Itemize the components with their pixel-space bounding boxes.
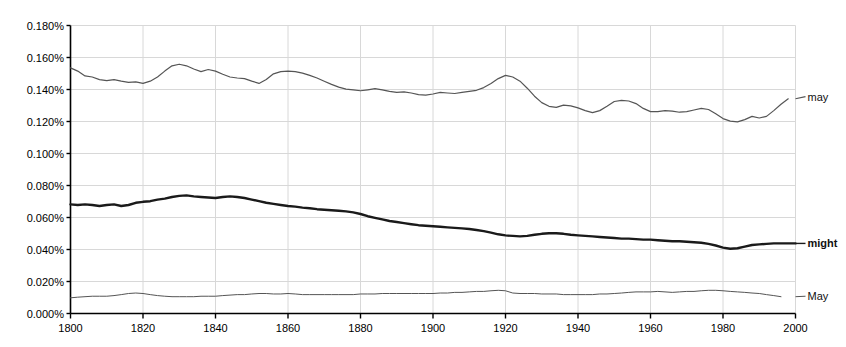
x-tick-label: 1860 (276, 323, 300, 334)
x-tick-label: 2000 (783, 323, 807, 334)
y-tick-label: 0.140% (0, 84, 64, 95)
x-tick-label: 1960 (638, 323, 662, 334)
y-tick-label: 0.160% (0, 52, 64, 63)
series-leader-lines (796, 97, 806, 297)
chart-plot-area (0, 0, 846, 347)
y-tick-label: 0.060% (0, 212, 64, 223)
series-line-may (71, 64, 789, 122)
y-tick-label: 0.000% (0, 308, 64, 319)
y-tick-label: 0.120% (0, 116, 64, 127)
x-tick-label: 1900 (421, 323, 445, 334)
y-tick-label: 0.020% (0, 276, 64, 287)
x-tick-label: 1800 (58, 323, 82, 334)
series-label-May: May (808, 291, 829, 302)
x-tick-label: 1820 (131, 323, 155, 334)
x-tick-label: 1980 (711, 323, 735, 334)
x-tick-label: 1940 (566, 323, 590, 334)
y-tick-label: 0.180% (0, 20, 64, 31)
gridlines-vertical (143, 26, 796, 314)
y-tick-label: 0.100% (0, 148, 64, 159)
series-label-might: might (808, 238, 838, 249)
x-tick-label: 1840 (203, 323, 227, 334)
axis-ticks (67, 26, 796, 319)
x-tick-label: 1920 (493, 323, 517, 334)
y-tick-label: 0.040% (0, 244, 64, 255)
series-label-may: may (808, 91, 829, 102)
x-tick-label: 1880 (348, 323, 372, 334)
ngram-chart: 0.000%0.020%0.040%0.060%0.080%0.100%0.12… (0, 0, 846, 347)
series-line-May (71, 290, 782, 298)
y-tick-label: 0.080% (0, 180, 64, 191)
series-leader-may (796, 97, 806, 99)
